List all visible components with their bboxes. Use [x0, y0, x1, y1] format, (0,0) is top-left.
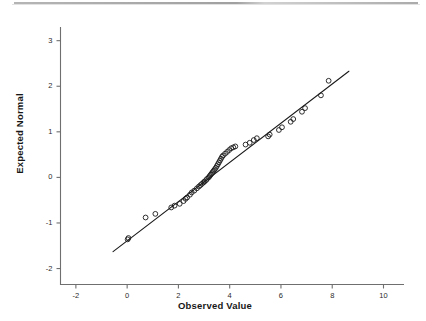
y-axis-tick-label: 2 — [35, 81, 53, 90]
y-axis-tick-label: -2 — [35, 264, 53, 273]
y-axis-tick-label: 0 — [35, 172, 53, 181]
reference-line-segment — [113, 71, 349, 251]
x-axis-tick-label: 0 — [118, 291, 136, 300]
x-axis-tick-label: 2 — [169, 291, 187, 300]
normal-qq-plot-figure: Expected Normal Observed Value -2-10123-… — [0, 0, 426, 321]
y-axis-tick-label: 3 — [35, 36, 53, 45]
data-point-marker — [143, 215, 148, 220]
y-axis-tick-label: 1 — [35, 127, 53, 136]
data-point-marker — [277, 128, 282, 133]
data-point-marker — [153, 211, 158, 216]
x-axis-ticks — [76, 285, 384, 289]
x-axis-tick-label: -2 — [67, 291, 85, 300]
axis-lines — [61, 27, 405, 285]
y-axis-tick-label: -1 — [35, 218, 53, 227]
data-point-marker — [319, 93, 324, 98]
x-axis-tick-label: 6 — [272, 291, 290, 300]
reference-line — [113, 71, 349, 251]
data-point-marker — [326, 78, 331, 83]
data-point-markers — [125, 78, 331, 241]
x-axis-tick-label: 10 — [374, 291, 392, 300]
plot-canvas — [0, 0, 426, 321]
x-axis-tick-label: 8 — [323, 291, 341, 300]
data-point-marker — [303, 106, 308, 111]
x-axis-tick-label: 4 — [221, 291, 239, 300]
data-point-marker — [280, 125, 285, 130]
x-axis-title: Observed Value — [120, 300, 310, 311]
y-axis-ticks — [57, 41, 61, 269]
y-axis-title: Expected Normal — [14, 74, 25, 194]
